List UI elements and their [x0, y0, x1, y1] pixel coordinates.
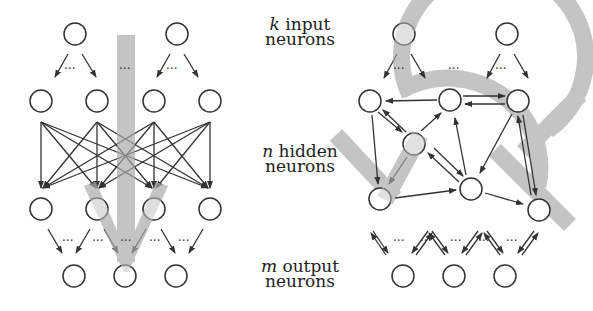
svg-text:···: ···: [120, 234, 131, 248]
hidden-neuron: [30, 198, 52, 220]
input-neuron: [496, 23, 518, 45]
svg-text:···: ···: [478, 234, 489, 248]
svg-text:···: ···: [92, 234, 103, 248]
svg-text:···: ···: [450, 234, 461, 248]
svg-text:···: ···: [166, 62, 177, 76]
svg-text:···: ···: [178, 234, 189, 248]
svg-text:···: ···: [393, 234, 404, 248]
hidden-neuron: [199, 90, 221, 112]
hidden-neurons-label: n hidden neurons: [230, 144, 370, 174]
hidden-neuron: [143, 90, 165, 112]
output-neuron: [443, 265, 465, 287]
svg-text:···: ···: [62, 234, 73, 248]
input-neurons-label: k input neurons: [230, 17, 370, 47]
svg-text:···: ···: [506, 234, 517, 248]
svg-text:···: ···: [119, 62, 130, 76]
hidden-neuron: [199, 198, 221, 220]
output-neuron: [392, 265, 414, 287]
hidden-neuron: [460, 178, 482, 200]
label-text: neurons: [230, 32, 370, 47]
hidden-neuron: [528, 199, 550, 221]
hidden-neuron: [439, 89, 461, 111]
output-neuron: [165, 265, 187, 287]
hidden-neuron: [30, 90, 52, 112]
svg-text:···: ···: [448, 62, 459, 76]
svg-text:···: ···: [64, 62, 75, 76]
svg-text:···: ···: [149, 234, 160, 248]
svg-text:···: ···: [393, 62, 404, 76]
hidden-neuron: [359, 90, 381, 112]
output-neurons-label: m output neurons: [230, 259, 370, 289]
output-neuron: [494, 265, 516, 287]
hidden-neuron: [507, 90, 529, 112]
hidden-neuron: [86, 90, 108, 112]
input-neuron: [64, 23, 86, 45]
output-neuron: [63, 265, 85, 287]
label-text: neurons: [230, 159, 370, 174]
input-neuron: [166, 23, 188, 45]
svg-text:···: ···: [420, 234, 431, 248]
svg-text:···: ···: [495, 62, 506, 76]
label-text: neurons: [230, 274, 370, 289]
